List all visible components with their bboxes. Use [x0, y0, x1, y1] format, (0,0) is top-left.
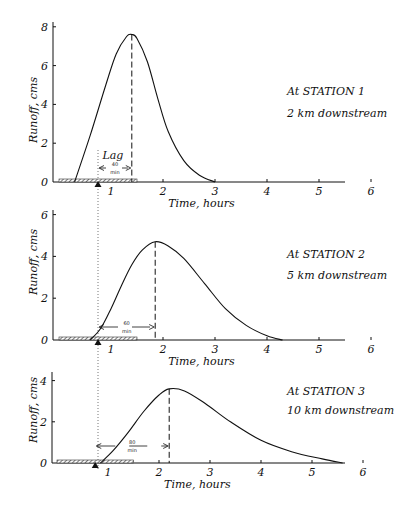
y-tick-label: 0: [41, 334, 48, 347]
hydrograph-curve: [75, 34, 215, 182]
y-tick-label: 6: [41, 60, 48, 73]
y-axis-label: Runoff, cms: [27, 229, 40, 296]
x-tick-label: 6: [368, 185, 375, 198]
x-tick-label: 6: [368, 343, 375, 356]
y-tick-label: 8: [41, 21, 48, 34]
y-tick-label: 4: [39, 375, 47, 388]
lag-value: 60: [123, 320, 129, 326]
x-tick-label: 2: [159, 185, 167, 198]
station-distance: 2 km downstream: [286, 107, 387, 120]
y-tick-label: 6: [41, 209, 48, 222]
y-tick-label: 2: [39, 416, 47, 429]
station-distance: 5 km downstream: [287, 269, 387, 282]
x-tick-label: 5: [309, 466, 316, 479]
hydrograph-curve: [90, 242, 282, 340]
y-axis-label: Runoff, cms: [27, 77, 40, 144]
lag-label: Lag: [101, 149, 123, 162]
lag-value: 80: [129, 439, 135, 445]
y-tick-label: 0: [40, 457, 47, 470]
y-tick-label: 2: [40, 137, 48, 150]
station-distance: 10 km downstream: [287, 404, 394, 417]
y-tick-label: 0: [41, 176, 48, 189]
x-tick-label: 5: [316, 185, 323, 198]
y-tick-label: 2: [40, 292, 48, 305]
x-axis-label: Time, hours: [168, 197, 235, 210]
y-axis-label: Runoff, cms: [27, 377, 40, 444]
x-axis-label: Time, hours: [168, 355, 235, 368]
station-title: At STATION 1: [286, 85, 365, 98]
lag-unit: min: [128, 447, 137, 453]
x-tick-label: 2: [155, 466, 163, 479]
x-tick-label: 4: [263, 185, 271, 198]
x-tick-label: 6: [360, 466, 367, 479]
hydrograph-figure: 0246812345640minLagRunoff, cmsTime, hour…: [0, 0, 410, 510]
x-tick-label: 5: [316, 343, 323, 356]
x-tick-label: 4: [257, 466, 265, 479]
y-tick-label: 4: [40, 250, 48, 263]
lag-unit: min: [110, 169, 119, 175]
lag-unit: min: [122, 328, 131, 334]
x-tick-label: 1: [108, 343, 115, 356]
x-tick-label: 1: [105, 466, 112, 479]
x-axis-label: Time, hours: [164, 478, 231, 491]
x-tick-label: 1: [108, 185, 115, 198]
station-title: At STATION 2: [286, 248, 365, 261]
x-tick-label: 2: [159, 343, 167, 356]
station-title: At STATION 3: [286, 385, 365, 398]
x-tick-label: 4: [263, 343, 271, 356]
y-tick-label: 4: [40, 98, 48, 111]
